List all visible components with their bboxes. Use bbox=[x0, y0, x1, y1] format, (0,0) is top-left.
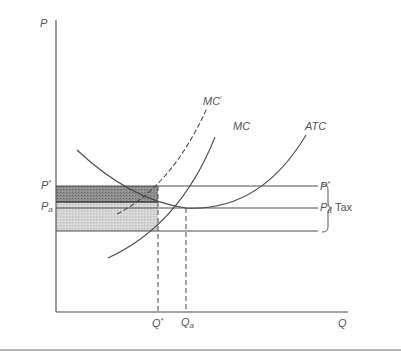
mc-label: MC bbox=[233, 121, 250, 132]
atc-label: ATC bbox=[305, 121, 326, 132]
q-star-label: Q* bbox=[152, 317, 163, 329]
tax-label: Tax bbox=[335, 202, 352, 213]
p-star-label-left: P* bbox=[41, 179, 51, 191]
light-shaded-region-upper bbox=[56, 202, 158, 208]
x-axis-label: Q bbox=[338, 318, 347, 329]
p-star-label-right-text: P* bbox=[320, 180, 330, 192]
q-a-label: Qa bbox=[181, 317, 194, 330]
light-shaded-region bbox=[56, 208, 158, 231]
p-a-label-right: Pa bbox=[320, 202, 332, 215]
cost-curve-diagram bbox=[0, 0, 401, 360]
y-axis-label: P bbox=[40, 18, 47, 29]
dark-shaded-region bbox=[56, 186, 158, 202]
mc-prime-label: MC′ bbox=[203, 95, 221, 107]
p-a-label-left: Pa bbox=[41, 201, 53, 214]
